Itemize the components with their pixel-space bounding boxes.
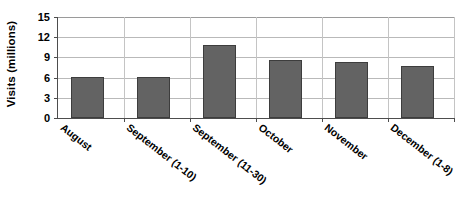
y-tick-label: 6 <box>24 73 50 83</box>
bar[interactable] <box>269 60 301 118</box>
x-tick-label: October <box>256 121 295 155</box>
bar[interactable] <box>203 45 235 118</box>
category-divider <box>190 17 191 118</box>
y-tick-mark-12 <box>54 37 58 38</box>
y-axis-title: Visits (millions) <box>0 0 22 128</box>
y-tick-mark-15 <box>54 17 58 18</box>
y-tick-mark-3 <box>54 98 58 99</box>
plot-area <box>57 17 454 119</box>
y-tick-label: 15 <box>24 12 50 22</box>
x-tick-label: November <box>322 121 370 162</box>
bar[interactable] <box>71 77 103 118</box>
category-divider <box>388 17 389 118</box>
y-tick-label: 9 <box>24 52 50 62</box>
y-axis-tick-labels: 03691215 <box>24 12 50 124</box>
category-divider <box>124 17 125 118</box>
x-axis-tick-labels: AugustSeptember (1-10)September (11-30)O… <box>57 121 457 220</box>
x-tick-label: September (1-10) <box>124 121 199 183</box>
x-tick-label: August <box>58 121 94 153</box>
bar-chart-figure: Visits (millions) 03691215 AugustSeptemb… <box>0 0 457 220</box>
category-divider <box>454 17 455 118</box>
y-tick-mark-9 <box>54 57 58 58</box>
bar[interactable] <box>137 77 169 118</box>
y-tick-label: 12 <box>24 32 50 42</box>
y-tick-label: 0 <box>24 113 50 123</box>
category-divider <box>322 17 323 118</box>
y-tick-mark-6 <box>54 78 58 79</box>
bar[interactable] <box>335 62 367 118</box>
x-tick-label: December (1-8) <box>388 121 455 177</box>
category-divider <box>256 17 257 118</box>
bar[interactable] <box>401 66 433 118</box>
y-tick-label: 3 <box>24 93 50 103</box>
y-tick-mark-0 <box>54 118 58 119</box>
y-axis-title-text: Visits (millions) <box>5 21 17 107</box>
